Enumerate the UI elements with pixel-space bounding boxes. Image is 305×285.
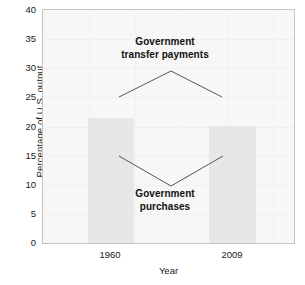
y-tick-35: 35 [2,34,36,44]
leader-line-purchases [119,156,223,186]
y-tick-25: 25 [2,92,36,102]
annotation-transfer-payments: Government transfer payments [85,36,245,61]
x-tick-1960: 1960 [80,249,140,260]
x-axis-title: Year [42,265,295,276]
y-tick-20: 20 [2,122,36,132]
y-tick-5: 5 [2,209,36,219]
annotation-purchases: Government purchases [85,188,245,213]
x-tick-2009: 2009 [202,249,262,260]
annotation-purchases-line1: Government [85,188,245,201]
y-tick-0: 0 [2,238,36,248]
annotation-transfer-line2: transfer payments [85,49,245,62]
annotation-transfer-line1: Government [85,36,245,49]
annotation-purchases-line2: purchases [85,201,245,214]
chart-figure: Percentage of U.S. output 40 35 30 25 20… [0,0,305,285]
y-tick-30: 30 [2,63,36,73]
y-tick-10: 10 [2,180,36,190]
y-tick-40: 40 [2,5,36,15]
y-tick-15: 15 [2,151,36,161]
leader-line-transfer-payments [119,71,222,97]
